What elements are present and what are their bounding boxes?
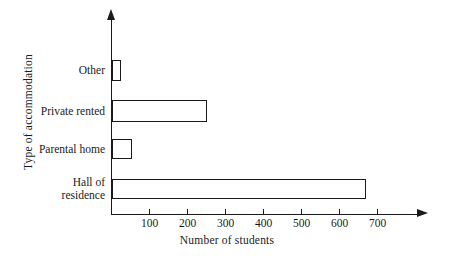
x-tick-label: 100 bbox=[130, 217, 170, 230]
x-axis-arrow-icon bbox=[417, 209, 428, 217]
x-axis-line bbox=[111, 214, 419, 215]
bar bbox=[112, 100, 207, 122]
bar bbox=[112, 139, 132, 159]
x-tick-label: 200 bbox=[168, 217, 208, 230]
x-tick-label: 500 bbox=[282, 217, 322, 230]
category-label: Private rented bbox=[41, 105, 105, 118]
bar bbox=[112, 179, 367, 199]
x-axis-title: Number of students bbox=[0, 234, 454, 246]
category-label: Other bbox=[79, 64, 105, 77]
x-tick-label: 300 bbox=[206, 217, 246, 230]
x-tick-mark bbox=[263, 209, 264, 215]
x-tick-label: 400 bbox=[244, 217, 284, 230]
y-axis-arrow-icon bbox=[107, 9, 115, 20]
y-axis-title: Type of accommodation bbox=[22, 12, 34, 212]
x-tick-mark bbox=[225, 209, 226, 215]
bar-chart: 100200300400500600700 OtherPrivate rente… bbox=[0, 0, 454, 262]
x-tick-label: 700 bbox=[358, 217, 398, 230]
x-tick-mark bbox=[187, 209, 188, 215]
x-tick-mark bbox=[301, 209, 302, 215]
x-tick-mark bbox=[149, 209, 150, 215]
category-label: Hall of residence bbox=[62, 176, 105, 201]
x-tick-mark bbox=[377, 209, 378, 215]
bar bbox=[112, 60, 122, 81]
x-tick-label: 600 bbox=[320, 217, 360, 230]
category-label: Parental home bbox=[39, 143, 105, 156]
x-tick-mark bbox=[339, 209, 340, 215]
